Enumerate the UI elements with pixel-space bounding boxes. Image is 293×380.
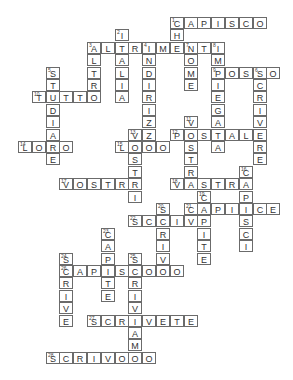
crossword-cell[interactable]: I xyxy=(170,215,184,227)
crossword-cell[interactable]: I xyxy=(197,228,211,240)
crossword-cell[interactable]: V xyxy=(142,315,156,327)
crossword-cell[interactable]: O xyxy=(128,352,142,364)
crossword-cell[interactable]: N7 xyxy=(184,42,198,54)
crossword-cell[interactable]: S xyxy=(197,178,211,190)
crossword-cell[interactable]: M xyxy=(184,67,198,79)
crossword-cell[interactable]: S6 xyxy=(253,67,267,79)
crossword-cell[interactable]: R xyxy=(73,352,87,364)
crossword-cell[interactable]: T xyxy=(170,315,184,327)
crossword-cell[interactable]: T xyxy=(59,91,73,103)
crossword-cell[interactable]: R xyxy=(253,91,267,103)
crossword-cell[interactable]: L xyxy=(101,42,115,54)
crossword-cell[interactable]: I xyxy=(128,315,142,327)
crossword-cell[interactable]: D xyxy=(142,67,156,79)
crossword-cell[interactable]: O xyxy=(87,91,101,103)
crossword-cell[interactable]: L15 xyxy=(115,141,129,153)
crossword-cell[interactable]: H xyxy=(170,29,184,41)
crossword-cell[interactable]: C19 xyxy=(197,191,211,203)
crossword-cell[interactable]: C xyxy=(156,215,170,227)
crossword-cell[interactable]: M xyxy=(156,42,170,54)
crossword-cell[interactable]: G xyxy=(211,104,225,116)
crossword-cell[interactable]: S27 xyxy=(87,315,101,327)
crossword-cell[interactable]: V xyxy=(156,253,170,265)
crossword-cell[interactable]: I8 xyxy=(211,42,225,54)
crossword-cell[interactable]: V xyxy=(59,302,73,314)
crossword-cell[interactable]: E xyxy=(253,153,267,165)
crossword-cell[interactable]: E xyxy=(184,79,198,91)
crossword-cell[interactable]: R xyxy=(142,91,156,103)
crossword-cell[interactable]: M xyxy=(211,54,225,66)
crossword-cell[interactable]: R xyxy=(87,79,101,91)
crossword-cell[interactable]: I xyxy=(59,290,73,302)
crossword-cell[interactable]: C21 xyxy=(184,203,198,215)
crossword-cell[interactable]: L14 xyxy=(18,141,32,153)
crossword-cell[interactable]: O xyxy=(253,17,267,29)
crossword-cell[interactable]: I xyxy=(239,203,253,215)
crossword-cell[interactable]: I4 xyxy=(142,42,156,54)
crossword-cell[interactable]: A xyxy=(239,178,253,190)
crossword-cell[interactable]: D xyxy=(46,104,60,116)
crossword-cell[interactable]: S xyxy=(184,141,198,153)
crossword-cell[interactable]: I2 xyxy=(115,29,129,41)
crossword-cell[interactable]: T xyxy=(211,178,225,190)
crossword-cell[interactable]: L xyxy=(115,67,129,79)
crossword-cell[interactable]: A xyxy=(211,116,225,128)
crossword-cell[interactable]: C xyxy=(142,215,156,227)
crossword-cell[interactable]: A xyxy=(73,265,87,277)
crossword-cell[interactable]: R xyxy=(225,178,239,190)
crossword-cell[interactable]: A xyxy=(197,203,211,215)
crossword-cell[interactable]: P xyxy=(101,253,115,265)
crossword-cell[interactable]: T xyxy=(101,277,115,289)
crossword-cell[interactable]: E xyxy=(197,253,211,265)
crossword-cell[interactable]: P12 xyxy=(170,129,184,141)
crossword-cell[interactable]: O xyxy=(59,141,73,153)
crossword-cell[interactable]: U xyxy=(46,91,60,103)
crossword-cell[interactable]: N xyxy=(142,54,156,66)
crossword-cell[interactable]: E xyxy=(211,91,225,103)
crossword-cell[interactable]: T xyxy=(101,178,115,190)
crossword-cell[interactable]: E xyxy=(46,153,60,165)
crossword-cell[interactable]: T xyxy=(73,91,87,103)
crossword-cell[interactable]: C23 xyxy=(101,228,115,240)
crossword-cell[interactable]: R xyxy=(128,277,142,289)
crossword-cell[interactable]: C xyxy=(128,265,142,277)
crossword-cell[interactable]: V xyxy=(101,352,115,364)
crossword-cell[interactable]: C1 xyxy=(170,17,184,29)
crossword-cell[interactable]: S xyxy=(87,178,101,190)
crossword-cell[interactable]: R xyxy=(253,141,267,153)
crossword-cell[interactable]: A3 xyxy=(87,42,101,54)
crossword-cell[interactable]: S xyxy=(197,129,211,141)
crossword-cell[interactable]: R xyxy=(128,178,142,190)
crossword-cell[interactable]: O xyxy=(73,178,87,190)
crossword-cell[interactable]: C xyxy=(239,228,253,240)
crossword-cell[interactable]: S xyxy=(239,215,253,227)
crossword-cell[interactable]: A xyxy=(184,178,198,190)
crossword-cell[interactable]: S25 xyxy=(128,253,142,265)
crossword-cell[interactable]: A xyxy=(184,17,198,29)
crossword-cell[interactable]: I xyxy=(115,79,129,91)
crossword-cell[interactable]: S xyxy=(239,67,253,79)
crossword-cell[interactable]: A xyxy=(115,91,129,103)
crossword-cell[interactable]: C16 xyxy=(239,166,253,178)
crossword-cell[interactable]: S28 xyxy=(46,352,60,364)
crossword-cell[interactable]: T xyxy=(115,42,129,54)
crossword-cell[interactable]: S20 xyxy=(156,203,170,215)
crossword-cell[interactable]: L xyxy=(87,54,101,66)
crossword-cell[interactable]: T xyxy=(87,67,101,79)
crossword-cell[interactable]: P xyxy=(87,265,101,277)
crossword-cell[interactable]: R xyxy=(156,228,170,240)
crossword-cell[interactable]: S24 xyxy=(59,253,73,265)
crossword-cell[interactable]: L xyxy=(239,129,253,141)
crossword-cell[interactable]: S22 xyxy=(128,215,142,227)
crossword-cell[interactable]: C xyxy=(239,17,253,29)
crossword-cell[interactable]: O xyxy=(115,352,129,364)
crossword-cell[interactable]: E xyxy=(170,42,184,54)
crossword-cell[interactable]: E xyxy=(184,315,198,327)
crossword-cell[interactable]: A xyxy=(101,240,115,252)
crossword-cell[interactable]: C26 xyxy=(59,265,73,277)
crossword-cell[interactable]: Z xyxy=(142,116,156,128)
crossword-cell[interactable]: O xyxy=(142,352,156,364)
crossword-cell[interactable]: V xyxy=(184,215,198,227)
crossword-cell[interactable]: O xyxy=(225,67,239,79)
crossword-cell[interactable]: A xyxy=(128,327,142,339)
